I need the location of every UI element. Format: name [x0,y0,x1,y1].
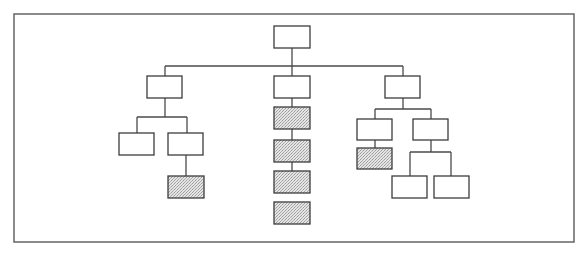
shaded-node-box-C1 [274,107,310,129]
node-box-C [274,76,310,98]
node-box-root [274,26,310,48]
shaded-node-box-C3 [274,171,310,193]
node-box-R [385,76,420,98]
node-box-R2 [413,119,448,140]
shaded-node-box-C4 [274,202,310,224]
shaded-node-box-L2a [168,176,204,198]
node-box-R1 [357,119,392,140]
node-box-L1 [119,133,154,155]
shaded-node-box-R1a [357,148,392,169]
node-box-L [147,76,182,98]
tree-nodes [119,26,469,224]
node-box-R2a [392,176,427,198]
shaded-node-box-C2 [274,140,310,162]
node-box-R2b [434,176,469,198]
node-box-L2 [168,133,203,155]
org-chart-diagram [0,0,582,256]
